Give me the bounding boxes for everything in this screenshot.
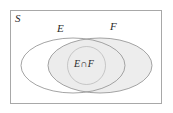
venn-diagram-canvas (0, 0, 173, 113)
venn-diagram: S E F E∩F (0, 0, 173, 113)
intersection-label: E∩F (74, 59, 94, 69)
set-f-label: F (110, 21, 117, 32)
set-e-label: E (57, 23, 64, 34)
universal-set-label: S (15, 13, 21, 24)
